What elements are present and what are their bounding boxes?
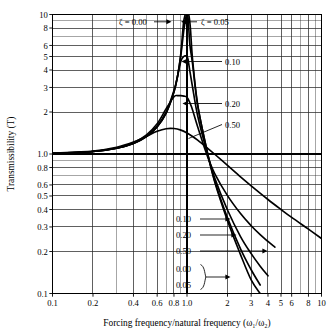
annotation-label: 0.20: [225, 99, 240, 109]
annotation-label: 0.10: [225, 57, 240, 67]
annotation-label: 0.00: [176, 264, 191, 274]
y-tick-label: 5: [44, 52, 48, 62]
y-tick-label: 0.5: [37, 191, 48, 201]
x-tick-label: 0.4: [128, 298, 139, 308]
x-tick-label: 8: [306, 298, 310, 308]
x-tick-label: 5: [279, 298, 283, 308]
x-tick-label: 0.8: [169, 298, 180, 308]
y-tick-label: 0.1: [37, 289, 48, 299]
annotation-label: ζ = 0.05: [201, 17, 229, 27]
x-axis-title: Forcing frequency/natural frequency (ω₁/…: [103, 318, 271, 329]
x-tick-label: 2: [225, 298, 229, 308]
y-axis-title: Transmissibility (T): [6, 117, 17, 192]
annotation-label: 0.05: [176, 280, 191, 290]
x-tick-label: 10: [317, 298, 326, 308]
y-tick-label: 0.2: [37, 247, 48, 257]
annotation-label: 0.10: [176, 214, 191, 224]
x-tick-label: 1.0: [182, 298, 193, 308]
x-tick-label: 3: [249, 298, 253, 308]
annotation-zeta-000-tail: 0.00: [176, 264, 191, 274]
annotation-label: 0.50: [225, 120, 240, 130]
chart-figure-root: ζ = 0.00ζ = 0.050.100.200.500.100.200.50…: [0, 0, 335, 335]
annotation-label: ζ = 0.00: [119, 17, 147, 27]
y-tick-label: 0.8: [37, 163, 48, 173]
x-tick-label: 4: [266, 298, 271, 308]
y-tick-label: 4: [44, 65, 49, 75]
y-tick-label: 6: [44, 41, 49, 51]
y-tick-label: 0.6: [37, 180, 48, 190]
annotation-zeta-005-tail: 0.05: [176, 280, 191, 290]
y-tick-label: 1.0: [37, 149, 48, 159]
y-tick-label: 2: [44, 107, 48, 117]
x-tick-label: 0.6: [152, 298, 163, 308]
y-tick-label: 0.4: [37, 205, 48, 215]
chart-svg: ζ = 0.00ζ = 0.050.100.200.500.100.200.50…: [0, 0, 335, 335]
x-tick-label: 0.1: [47, 298, 58, 308]
y-tick-label: 8: [44, 23, 48, 33]
annotation-label: 0.20: [176, 230, 191, 240]
y-tick-label: 10: [39, 10, 48, 20]
y-tick-label: 3: [44, 83, 48, 93]
x-tick-label: 6: [290, 298, 295, 308]
x-tick-label: 0.2: [88, 298, 99, 308]
transmissibility-chart: ζ = 0.00ζ = 0.050.100.200.500.100.200.50…: [0, 0, 335, 335]
y-tick-label: 0.3: [37, 222, 48, 232]
annotation-label: 0.50: [176, 246, 191, 256]
